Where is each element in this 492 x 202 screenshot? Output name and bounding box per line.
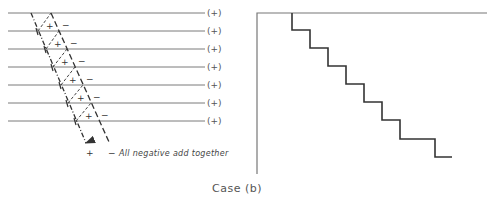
row-label-1: (+) (207, 8, 222, 18)
row-label-3: (+) (207, 44, 222, 54)
svg-text:−: − (101, 110, 109, 120)
negative-pulse-line (51, 13, 109, 142)
bottom-plus-sign: + (86, 148, 94, 158)
svg-text:+: + (85, 111, 93, 121)
svg-text:−: − (78, 56, 86, 66)
svg-text:+: + (69, 75, 77, 85)
row-label-4: (+) (207, 62, 222, 72)
row-label-5: (+) (207, 80, 222, 90)
row-label-7: (+) (207, 116, 222, 126)
row-label-2: (+) (207, 26, 222, 36)
case-b-figure: (+) (+) (+) (+) (+) (+) (+) + − + − + − … (0, 0, 492, 202)
row-labels: (+) (+) (+) (+) (+) (+) (+) (207, 8, 222, 126)
annotation-all-negative: All negative add together (118, 149, 229, 158)
svg-text:−: − (70, 38, 78, 48)
axes (257, 13, 487, 174)
svg-text:−: − (86, 74, 94, 84)
svg-text:−: − (93, 92, 101, 102)
svg-text:+: + (46, 21, 54, 31)
svg-text:+: + (77, 93, 85, 103)
row-label-6: (+) (207, 98, 222, 108)
svg-text:−: − (62, 20, 70, 30)
step-curve (292, 13, 452, 157)
step-chart (257, 13, 487, 174)
svg-text:+: + (61, 57, 69, 67)
figure-caption: Case (b) (212, 182, 262, 195)
svg-text:+: + (54, 39, 62, 49)
bottom-minus-sign: − (108, 148, 116, 158)
